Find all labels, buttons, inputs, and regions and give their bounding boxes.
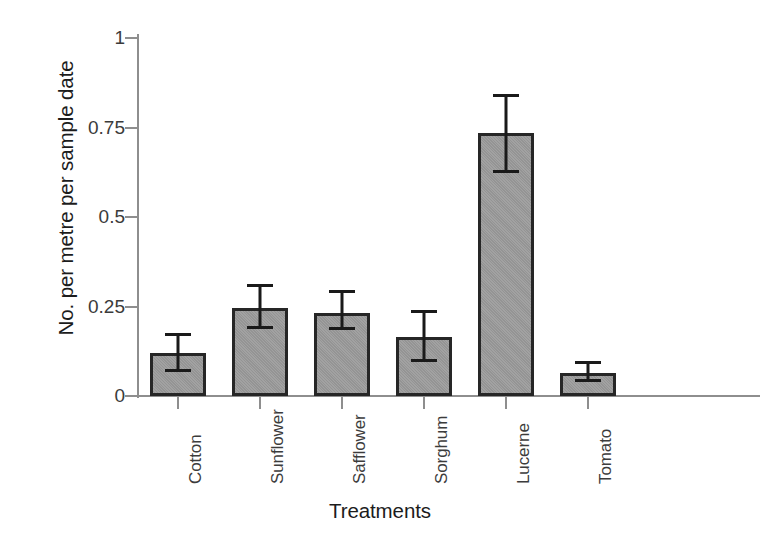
error-bar-cap-upper — [493, 94, 519, 97]
x-axis-category-label: Lucerne — [514, 423, 534, 484]
error-bar — [326, 290, 358, 331]
y-tick-mark — [125, 37, 137, 39]
x-tick-mark — [259, 396, 261, 409]
x-tick-mark — [423, 396, 425, 409]
y-tick-mark — [125, 216, 137, 218]
x-tick-mark — [341, 396, 343, 409]
error-bar-stem — [258, 284, 261, 329]
y-tick-mark — [125, 306, 137, 308]
error-bar-stem — [422, 310, 425, 362]
x-axis-category-label: Safflower — [350, 414, 370, 484]
error-bar-cap-upper — [165, 333, 191, 336]
y-axis-title: No. per metre per sample date — [44, 0, 88, 396]
error-bar-cap-upper — [329, 290, 355, 293]
y-tick-label: 1 — [53, 27, 125, 49]
y-tick-label: 0 — [53, 385, 125, 407]
y-tick-label: 0.5 — [53, 206, 125, 228]
x-tick-mark — [505, 396, 507, 409]
x-axis-category-label: Tomato — [596, 429, 616, 484]
error-bar — [490, 94, 522, 173]
error-bar-cap-lower — [493, 170, 519, 173]
error-bar — [162, 333, 194, 372]
y-tick-label: 0.75 — [53, 117, 125, 139]
y-axis-line — [137, 34, 139, 398]
error-bar-cap-lower — [329, 327, 355, 330]
bar-chart-figure: No. per metre per sample date 00.250.50.… — [0, 0, 767, 542]
error-bar-stem — [176, 333, 179, 372]
error-bar-cap-lower — [165, 369, 191, 372]
error-bar — [244, 284, 276, 329]
error-bar — [408, 310, 440, 362]
x-axis-title: Treatments — [120, 499, 640, 523]
y-tick-label: 0.25 — [53, 296, 125, 318]
error-bar-cap-lower — [575, 379, 601, 382]
x-tick-mark — [587, 396, 589, 409]
error-bar-cap-upper — [575, 361, 601, 364]
error-bar-stem — [504, 94, 507, 173]
error-bar-stem — [340, 290, 343, 331]
error-bar-cap-lower — [247, 326, 273, 329]
x-tick-mark — [177, 396, 179, 409]
error-bar-cap-upper — [411, 310, 437, 313]
x-axis-category-label: Cotton — [186, 435, 206, 485]
x-axis-category-label: Sorghum — [432, 416, 452, 484]
y-tick-mark — [125, 127, 137, 129]
error-bar — [572, 361, 604, 381]
error-bar-cap-lower — [411, 359, 437, 362]
x-axis-category-label: Sunflower — [268, 409, 288, 484]
y-tick-mark — [125, 395, 137, 397]
error-bar-cap-upper — [247, 284, 273, 287]
